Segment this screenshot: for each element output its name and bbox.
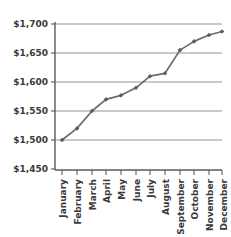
x-tick-label: July [146, 179, 156, 199]
data-markers [60, 29, 225, 142]
data-point [220, 29, 225, 34]
y-tick-label: $1,700 [13, 19, 48, 29]
y-axis [51, 22, 55, 170]
x-tick-label: December [219, 178, 229, 230]
x-axis [55, 170, 222, 175]
x-tick-label: April [102, 179, 112, 203]
x-tick-label: August [161, 178, 171, 215]
x-tick-label: October [190, 178, 200, 219]
x-tick-labels: January February March April May June Ju… [58, 178, 229, 235]
x-tick-label: January [58, 179, 68, 219]
gridlines [55, 24, 222, 140]
y-tick-labels: $1,700 $1,650 $1,600 $1,550 $1,500 $1,45… [13, 19, 48, 174]
y-tick-label: $1,450 [13, 164, 48, 174]
y-tick-label: $1,650 [13, 48, 48, 58]
x-tick-label: June [132, 179, 142, 202]
x-tick-label: November [205, 178, 215, 231]
chart-canvas: $1,700 $1,650 $1,600 $1,550 $1,500 $1,45… [0, 0, 231, 237]
x-tick-label: May [117, 179, 127, 200]
line-chart: $1,700 $1,650 $1,600 $1,550 $1,500 $1,45… [0, 0, 231, 237]
y-tick-label: $1,550 [13, 106, 48, 116]
y-tick-label: $1,500 [13, 135, 48, 145]
y-tick-label: $1,600 [13, 77, 48, 87]
x-tick-label: February [73, 179, 83, 225]
x-tick-label: March [88, 179, 98, 210]
x-tick-label: September [176, 178, 186, 234]
data-line [62, 32, 222, 140]
data-point [207, 33, 212, 38]
